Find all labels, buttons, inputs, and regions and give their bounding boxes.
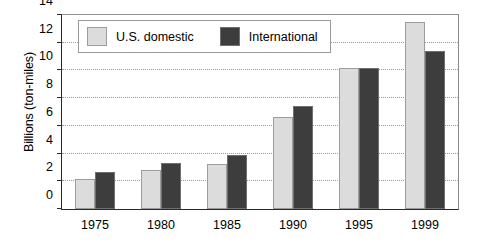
bar-1985-international [227,155,247,209]
bar-1975-us-domestic [75,179,95,209]
legend-swatch [220,27,240,46]
bar-1995-international [359,68,379,209]
x-axis-label: 1985 [213,218,241,232]
x-axis-label: 1975 [81,218,109,232]
legend-entry-us-domestic: U.S. domestic [87,27,194,46]
legend: U.S. domesticInternational [78,20,331,53]
y-axis-label: 0 [46,188,53,202]
bar-chart: Billions (ton-miles) 02468101214 1975198… [0,0,484,251]
x-axis-label: 1995 [345,218,373,232]
bar-1990-international [293,106,313,209]
x-axis-label: 1990 [279,218,307,232]
y-axis-label: 12 [39,22,53,36]
x-axis-label: 1980 [147,218,175,232]
bar-group [339,15,380,209]
legend-label: U.S. domestic [116,30,194,44]
y-axis-label: 8 [46,77,53,91]
bar-1999-international [425,51,445,209]
y-axis-label: 14 [39,0,53,8]
y-axis-label: 2 [46,160,53,174]
bar-group [405,15,446,209]
bar-1980-us-domestic [141,170,161,209]
bar-1990-us-domestic [273,117,293,209]
y-axis-label: 4 [46,133,53,147]
bar-1980-international [161,163,181,209]
bar-1975-international [95,172,115,209]
bar-1985-us-domestic [207,164,227,209]
legend-label: International [249,30,318,44]
x-axis-label: 1999 [411,218,439,232]
bar-1995-us-domestic [339,68,359,209]
legend-entry-international: International [220,27,318,46]
bar-1999-us-domestic [405,22,425,209]
legend-swatch [87,27,107,46]
y-axis-title: Billions (ton-miles) [22,7,36,197]
y-axis-label: 10 [39,49,53,63]
plot-area: 02468101214 197519801985199019951999 U.S… [61,14,459,210]
y-axis-label: 6 [46,105,53,119]
